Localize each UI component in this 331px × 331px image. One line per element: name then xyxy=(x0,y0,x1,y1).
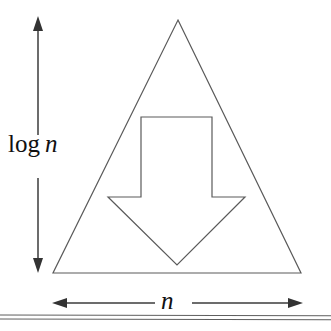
inner-down-arrow xyxy=(108,117,245,265)
height-label-variable: n xyxy=(45,130,58,157)
width-dimension-arrowhead-right xyxy=(288,298,303,308)
height-dimension-arrowhead-down xyxy=(33,258,43,273)
figure-canvas xyxy=(0,0,331,331)
bottom-rule-upper xyxy=(0,315,331,316)
width-label: n xyxy=(161,288,174,313)
height-label: log n xyxy=(8,131,57,156)
figure-container: log n n xyxy=(0,0,331,331)
bottom-rule-lower xyxy=(0,319,331,320)
height-label-prefix: log xyxy=(8,130,40,157)
height-dimension-arrowhead-up xyxy=(33,16,43,31)
outer-triangle xyxy=(53,20,301,273)
width-dimension-arrowhead-left xyxy=(52,298,67,308)
